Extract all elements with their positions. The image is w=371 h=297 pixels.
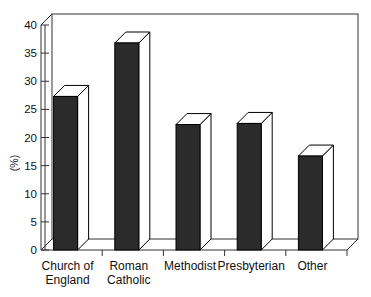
y-axis-tick-label: 5: [31, 216, 37, 228]
bar-side-face: [322, 145, 333, 250]
bar-side-face: [200, 114, 211, 250]
y-axis-tick-label: 25: [24, 103, 37, 115]
y-axis-tick-label: 10: [24, 188, 37, 200]
bar-group: [115, 32, 150, 250]
x-axis-category-label: Catholic: [107, 273, 150, 287]
bar-side-face: [139, 32, 150, 250]
x-axis-category-label: Church of: [42, 259, 95, 273]
y-axis-tick-label: 30: [24, 75, 37, 87]
chart-canvas: 0510152025303540(%)Church ofEnglandRoman…: [0, 0, 371, 297]
frame-connector-bottom-left: [41, 239, 52, 250]
bar-group: [176, 114, 211, 250]
bar-side-face: [78, 85, 89, 250]
x-axis-category-label: Presbyterian: [218, 259, 285, 273]
x-axis-category-label: Roman: [109, 259, 148, 273]
x-axis-category-label: Other: [297, 259, 327, 273]
bar-front-face: [54, 96, 78, 250]
bar-group: [237, 112, 272, 250]
bar-front-face: [176, 125, 200, 250]
bar-group: [298, 145, 333, 250]
bar-front-face: [298, 156, 322, 250]
y-axis-tick-label: 0: [31, 244, 37, 256]
bar-side-face: [261, 112, 272, 250]
bar-chart: 0510152025303540(%)Church ofEnglandRoman…: [0, 0, 371, 297]
bar-front-face: [237, 123, 261, 250]
y-axis-tick-label: 40: [24, 19, 37, 31]
bar-front-face: [115, 43, 139, 250]
x-axis-category-label: England: [46, 273, 90, 287]
frame-connector-bottom-right: [347, 239, 358, 250]
x-axis-category-label: Methodist: [164, 259, 217, 273]
y-axis-title: (%): [8, 155, 20, 171]
bar-group: [54, 85, 89, 250]
y-axis-tick-label: 35: [24, 47, 37, 59]
y-axis-tick-label: 20: [24, 132, 37, 144]
frame-connector-top-left: [41, 14, 52, 25]
y-axis-tick-label: 15: [24, 160, 37, 172]
